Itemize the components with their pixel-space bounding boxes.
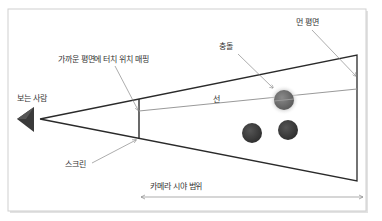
object-sphere — [242, 123, 262, 143]
label-ray: 선 — [213, 93, 220, 104]
label-far-plane: 먼 평면 — [296, 16, 319, 27]
label-collision: 충돌 — [219, 40, 233, 51]
camera-frustum-diagram: 보는 사람 가까운 평면에 터치 위치 매핑 충돌 먼 평면 선 스크린 카메라… — [0, 0, 382, 221]
label-near-plane-mapping: 가까운 평면에 터치 위치 매핑 — [58, 53, 149, 64]
object-sphere — [278, 120, 298, 140]
label-screen: 스크린 — [65, 158, 85, 169]
label-viewer: 보는 사람 — [17, 92, 47, 103]
label-camera-fov: 카메라 시야 범위 — [150, 180, 202, 191]
